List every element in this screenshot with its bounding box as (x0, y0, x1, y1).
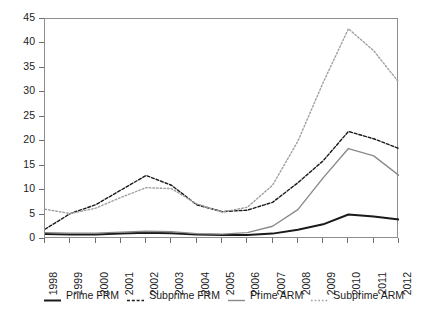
y-axis: 051015202530354045 (0, 0, 44, 256)
y-tick-label: 40 (23, 35, 35, 48)
x-tick-mark (69, 238, 70, 243)
x-tick-mark (196, 238, 197, 243)
chart-figure: 051015202530354045 199819992000200120022… (0, 0, 422, 312)
x-tick-mark (44, 238, 45, 243)
x-tick-mark (145, 238, 146, 243)
plot-area (44, 18, 398, 238)
x-tick-mark (120, 238, 121, 243)
series-lines (45, 19, 399, 239)
legend-item-prime-arm[interactable]: Prime ARM (228, 289, 303, 301)
y-tick-label: 15 (23, 158, 35, 171)
y-tick-label: 20 (23, 133, 35, 146)
x-tick-mark (398, 238, 399, 243)
legend-swatch-icon (44, 291, 61, 300)
x-tick-mark (322, 238, 323, 243)
series-line-prime-frm (45, 215, 399, 236)
x-tick-mark (347, 238, 348, 243)
legend-label: Subprime ARM (333, 289, 404, 301)
chart-legend: Prime FRMSubprime FRMPrime ARMSubprime A… (44, 286, 404, 304)
y-tick-label: 0 (29, 231, 35, 244)
y-tick-label: 5 (29, 207, 35, 220)
x-tick-mark (221, 238, 222, 243)
legend-swatch-icon (311, 291, 328, 300)
series-line-subprime-arm (45, 29, 399, 214)
y-tick-label: 45 (23, 11, 35, 24)
y-tick-label: 30 (23, 84, 35, 97)
legend-swatch-icon (127, 291, 144, 300)
x-tick-mark (272, 238, 273, 243)
legend-label: Prime ARM (250, 289, 303, 301)
y-tick-label: 25 (23, 109, 35, 122)
legend-label: Prime FRM (66, 289, 119, 301)
x-tick-mark (170, 238, 171, 243)
legend-label: Subprime FRM (149, 289, 220, 301)
x-tick-mark (95, 238, 96, 243)
legend-item-prime-frm[interactable]: Prime FRM (44, 289, 119, 301)
x-tick-mark (373, 238, 374, 243)
legend-item-subprime-frm[interactable]: Subprime FRM (127, 289, 220, 301)
x-tick-mark (246, 238, 247, 243)
x-tick-mark (297, 238, 298, 243)
legend-item-subprime-arm[interactable]: Subprime ARM (311, 289, 404, 301)
series-line-prime-arm (45, 149, 399, 235)
legend-swatch-icon (228, 291, 245, 300)
y-tick-label: 10 (23, 182, 35, 195)
y-tick-label: 35 (23, 60, 35, 73)
